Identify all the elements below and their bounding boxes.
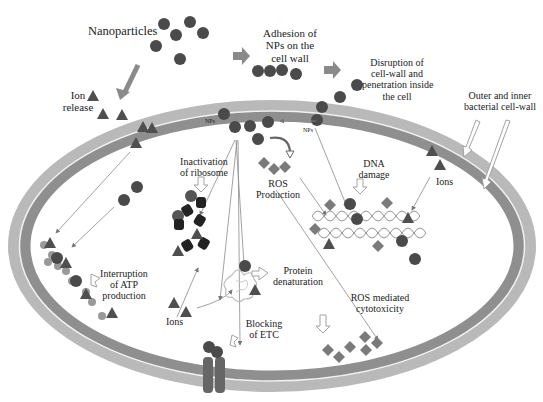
label-etc: Blocking of ETC [243,318,285,340]
denatured-protein-icon [224,260,261,302]
label-ros-cytotoxicity: ROS mediated cytotoxicity [346,292,414,314]
loose-nanoparticles [118,181,143,206]
ros-species [258,157,291,175]
label-ion-release: Ion release [58,89,98,114]
label-ribosome: Inactivation of ribosome [172,156,236,178]
label-atp: Interruption of ATP production [99,268,149,302]
ros-cytotoxicity-cluster [322,331,383,363]
entry-arrow-icon [116,65,138,100]
ribosome-cluster [172,190,211,256]
label-ions-right: Ions [436,176,453,187]
label-nanoparticles: Nanoparticles [88,24,157,38]
label-ros-production: ROS Production [248,178,308,200]
label-nps-right: NPs [303,127,313,134]
label-protein-denaturation: Protein denaturation [268,265,328,287]
adhered-nanoparticles [252,64,302,80]
label-ions-bottom: Ions [166,316,183,327]
label-nps-left: NPs [205,118,215,125]
ions-cluster [168,297,192,317]
label-adhesion: Adhesion of NPs on the cell wall [255,27,325,64]
label-disruption: Disruption of cell-wall and penetration … [362,57,432,102]
label-dna-damage: DNA damage [354,158,394,180]
ros-generation-arrow-icon [270,138,294,158]
free-nanoparticles [150,16,209,65]
label-cell-wall: Outer and inner bacterial cell-wall [457,90,543,112]
bacterial-cell-wall [14,106,530,386]
